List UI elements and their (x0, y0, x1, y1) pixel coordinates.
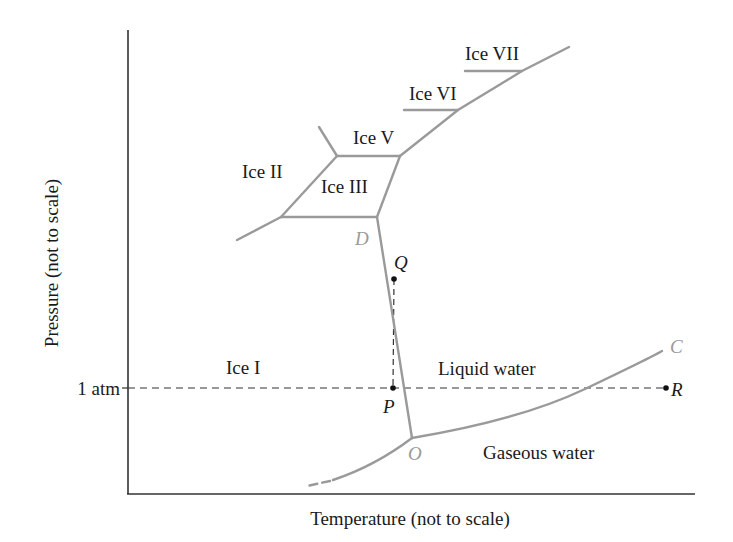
point-label-O: O (408, 443, 422, 464)
point-label-C: C (670, 336, 683, 357)
region-label-ice6: Ice VI (409, 83, 457, 104)
boundary-ice1-ice2 (237, 217, 281, 240)
region-label-ice7: Ice VII (465, 43, 519, 64)
region-label-ice3: Ice III (321, 176, 368, 197)
isotherm-PQ-dashed (393, 279, 394, 388)
point-label-R: R (670, 379, 683, 400)
y-tick-label: 1 atm (77, 378, 120, 399)
point-label-D: D (354, 228, 369, 249)
phase-boundaries (237, 47, 662, 486)
point-label-P: P (382, 396, 395, 417)
region-label-ice5: Ice V (353, 127, 395, 148)
x-axis-title: Temperature (not to scale) (310, 508, 510, 530)
phase-diagram: Ice VII Ice VI Ice V Ice II Ice III Ice … (0, 0, 733, 542)
boundary-ice1-gas-extrapolated (307, 481, 330, 486)
boundary-ice2-ice5 (319, 127, 337, 156)
point-Q-dot (391, 276, 397, 282)
region-label-ice1: Ice I (226, 357, 260, 378)
boundary-ice1-gas (333, 438, 412, 480)
region-label-gas: Gaseous water (483, 442, 595, 463)
point-P-dot (390, 385, 396, 391)
boundary-ice3-liquid (377, 156, 400, 217)
point-R-dot (663, 385, 669, 391)
y-axis-title: Pressure (not to scale) (41, 179, 63, 347)
region-label-ice2: Ice II (242, 161, 283, 182)
point-label-Q: Q (394, 252, 408, 273)
region-label-liquid: Liquid water (438, 358, 536, 379)
